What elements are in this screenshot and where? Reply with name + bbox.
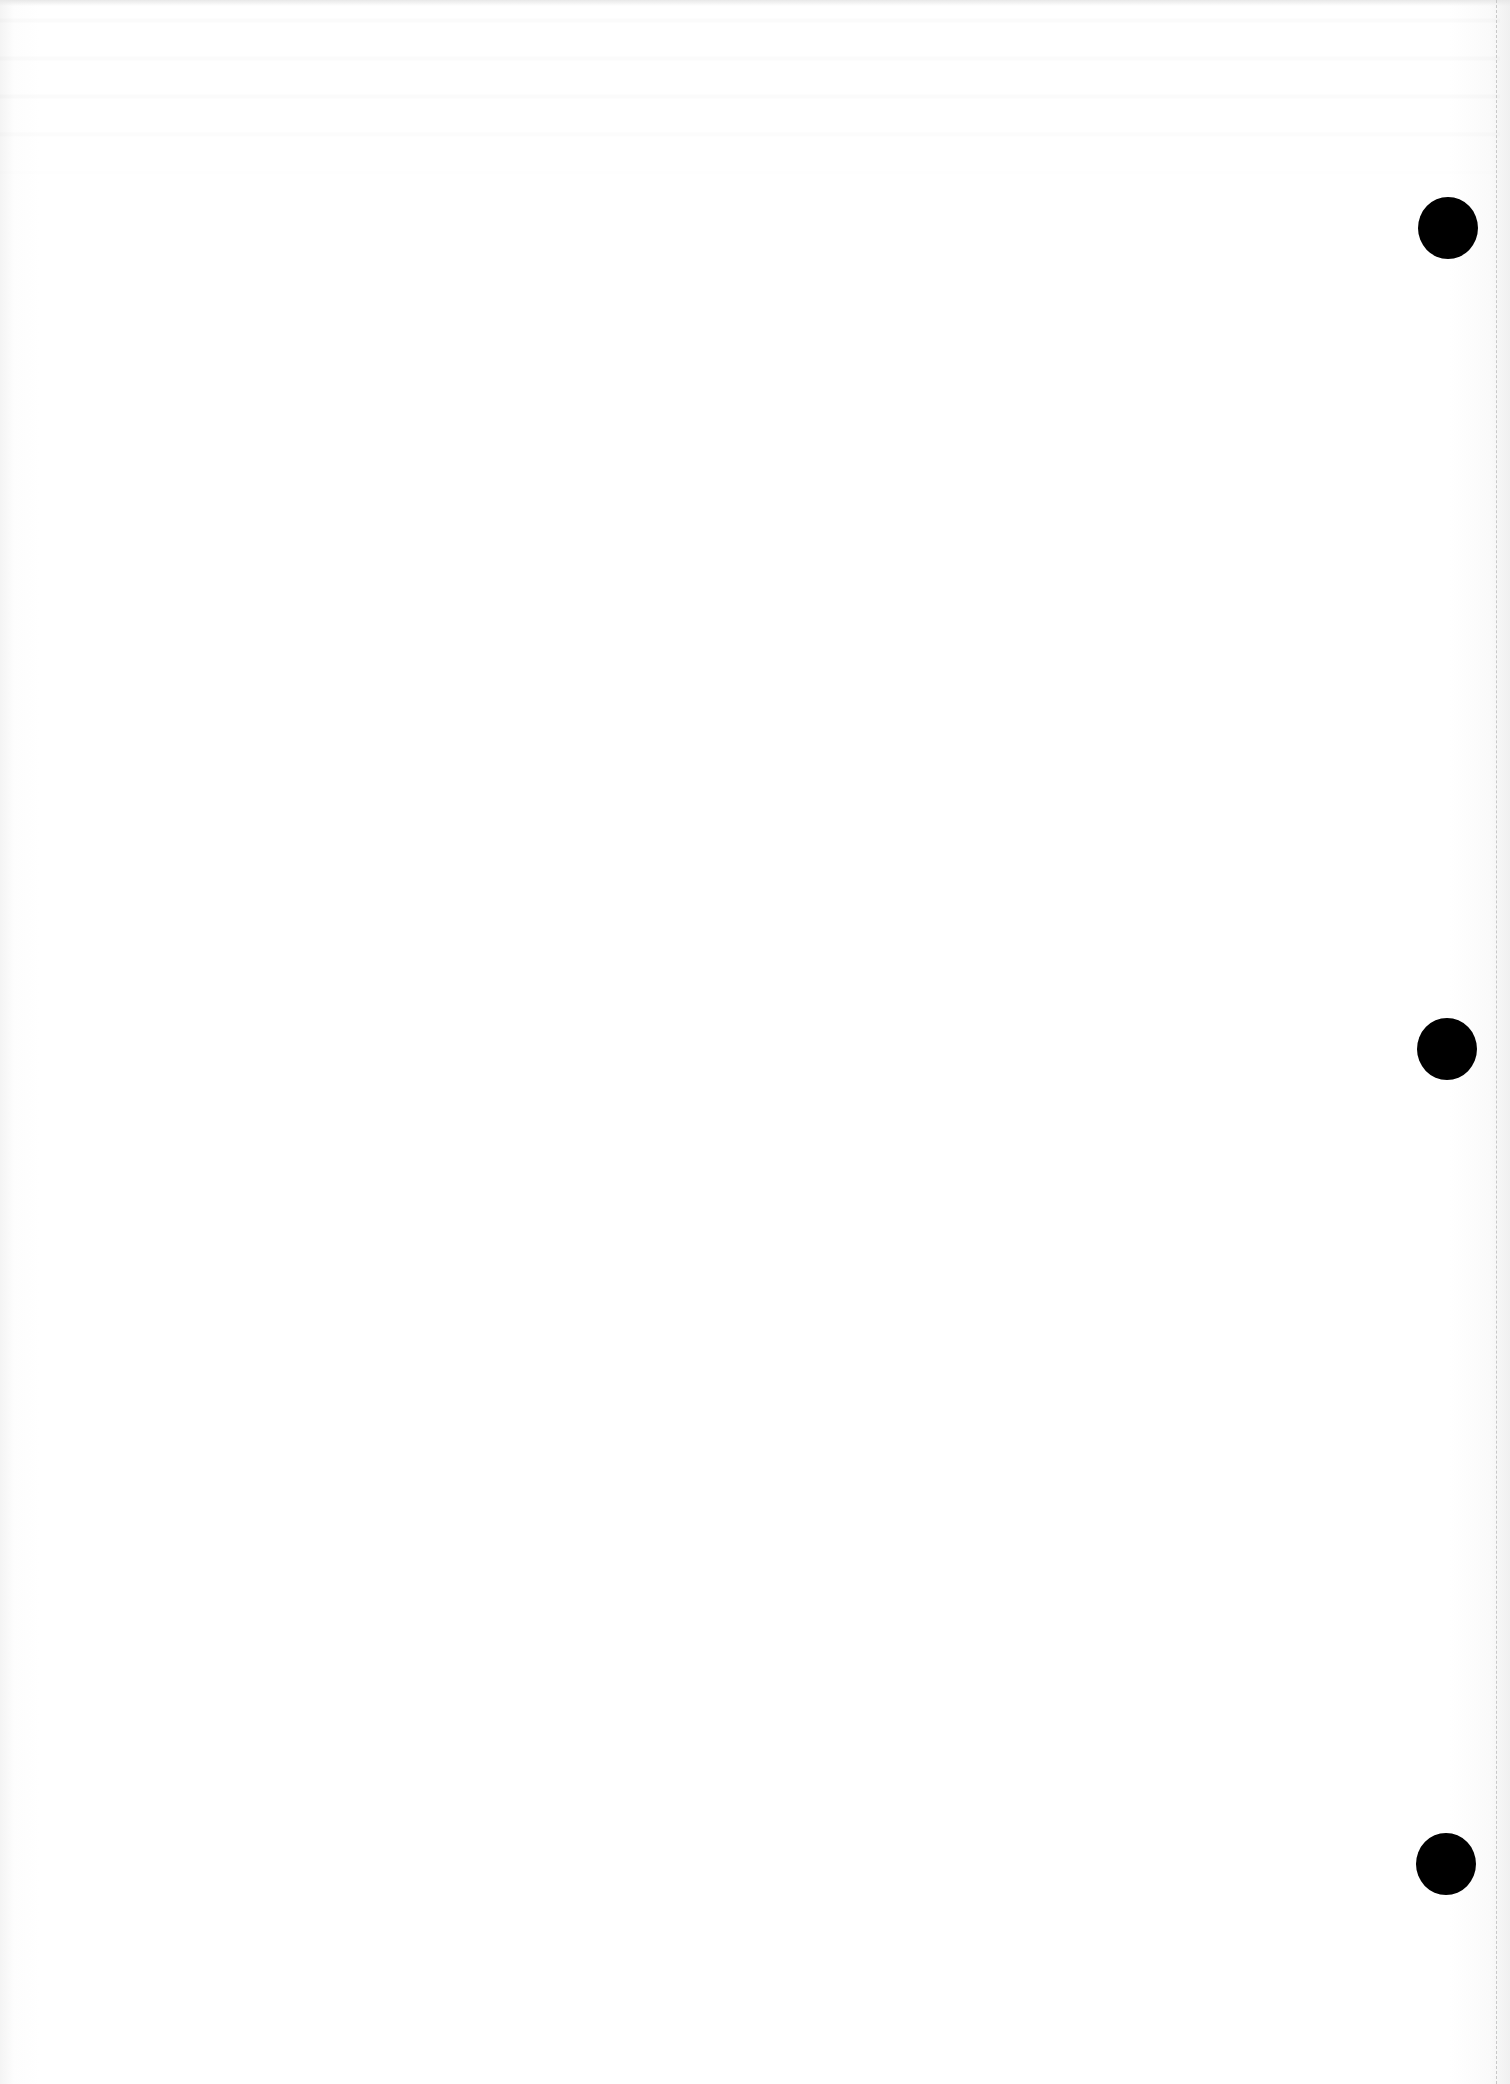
bleed-through-marks [0,0,1500,190]
paper-sheet [0,0,1510,2084]
punch-hole-bottom [1416,1833,1476,1895]
punch-hole-middle [1417,1018,1477,1080]
perforation-line [1496,0,1497,2084]
punch-hole-top [1418,197,1478,259]
